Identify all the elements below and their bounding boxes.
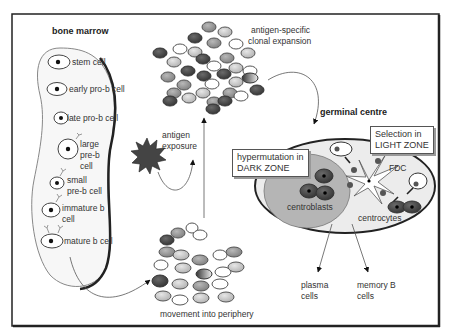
centroblasts-label: centroblasts — [287, 202, 333, 212]
dark-zone-box: hypermutation in DARK ZONE — [232, 149, 309, 177]
early-pro-b-cell — [47, 83, 67, 96]
stage-label-mature-b: mature b cell — [64, 236, 113, 246]
germinal-centre-title: germinal centre — [320, 107, 387, 117]
antigen-exposure-label-line1: antigen — [162, 130, 190, 140]
stage-label-small-pre-b-line2: pre-b cell — [67, 186, 102, 196]
plasma-cells-label-line1: plasma — [301, 280, 328, 290]
stage-label-immature-b-line1: immature b — [62, 203, 105, 213]
light-zone-cell — [409, 173, 427, 189]
light-zone-box: Selection in LIGHT ZONE — [370, 126, 434, 154]
stage-label-early-pro-b: early pro-b cell — [69, 84, 125, 94]
stage-label-stem-cell: stem cell — [72, 57, 106, 67]
clonal-expansion-label-line2: clonal expansion — [248, 36, 311, 46]
dark-zone-box-line2: DARK ZONE — [237, 163, 304, 174]
stage-label-small-pre-b-line1: small — [67, 175, 87, 185]
periphery-label: movement into periphery — [160, 309, 254, 319]
plasma-cells-label-line2: cells — [301, 291, 318, 301]
stage-label-late-pro-b: late pro-b cell — [67, 113, 118, 123]
fdc-label: FDC — [389, 163, 406, 173]
dark-zone-box-line1: hypermutation in — [237, 152, 304, 163]
stage-label-large-pre-b-line1: large — [80, 139, 99, 149]
antigen-exposure-label-line2: exposure — [162, 141, 197, 151]
stage-label-immature-b-line2: cell — [62, 214, 75, 224]
light-zone-cell — [330, 142, 352, 156]
bone-marrow-title: bone marrow — [52, 26, 109, 36]
stage-label-large-pre-b-line3: cell — [80, 161, 93, 171]
clonal-expansion-label-line1: antigen-specific — [251, 25, 310, 35]
memory-b-cells-label-line1: memory B — [357, 280, 396, 290]
stage-label-large-pre-b-line2: pre-b — [80, 150, 100, 160]
light-zone-box-line2: LIGHT ZONE — [375, 140, 429, 151]
light-zone-box-line1: Selection in — [375, 129, 429, 140]
late-pro-b-cell — [54, 112, 68, 124]
memory-b-cells-label-line2: cells — [357, 291, 374, 301]
centrocytes-label: centrocytes — [358, 213, 401, 223]
stem-cell — [48, 55, 70, 69]
